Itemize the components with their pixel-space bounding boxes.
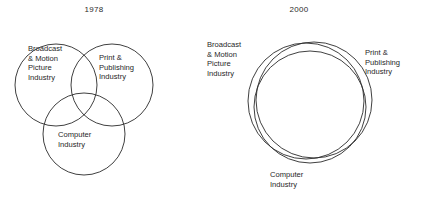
label-line: Publishing bbox=[365, 58, 400, 68]
label-line: Picture bbox=[28, 63, 62, 73]
panel-1978: 1978 Broadcast & Motion Picture Industry… bbox=[0, 0, 214, 205]
label-computer-industry-2000: Computer Industry bbox=[270, 170, 303, 189]
label-computer-industry-1978: Computer Industry bbox=[58, 130, 91, 149]
label-line: Computer bbox=[58, 130, 91, 140]
label-line: & Motion bbox=[28, 54, 62, 64]
label-broadcast-motion-picture-2000: Broadcast & Motion Picture Industry bbox=[207, 40, 241, 78]
figure-root: 1978 Broadcast & Motion Picture Industry… bbox=[0, 0, 427, 205]
label-line: Industry bbox=[270, 180, 303, 190]
label-line: Computer bbox=[270, 170, 303, 180]
label-print-publishing-1978: Print & Publishing Industry bbox=[99, 53, 134, 82]
label-print-publishing-2000: Print & Publishing Industry bbox=[365, 48, 400, 77]
label-line: Publishing bbox=[99, 63, 134, 73]
venn-diagram-2000 bbox=[213, 0, 427, 205]
label-line: Industry bbox=[58, 140, 91, 150]
label-line: Industry bbox=[28, 73, 62, 83]
panel-2000: 2000 Broadcast & Motion Picture Industry… bbox=[213, 0, 427, 205]
label-broadcast-motion-picture-1978: Broadcast & Motion Picture Industry bbox=[28, 44, 62, 82]
label-line: Picture bbox=[207, 59, 241, 69]
label-line: & Motion bbox=[207, 50, 241, 60]
venn-diagram-1978 bbox=[0, 0, 214, 205]
label-line: Broadcast bbox=[207, 40, 241, 50]
label-line: Broadcast bbox=[28, 44, 62, 54]
label-line: Print & bbox=[365, 48, 400, 58]
label-line: Print & bbox=[99, 53, 134, 63]
label-line: Industry bbox=[99, 72, 134, 82]
label-line: Industry bbox=[365, 67, 400, 77]
label-line: Industry bbox=[207, 69, 241, 79]
